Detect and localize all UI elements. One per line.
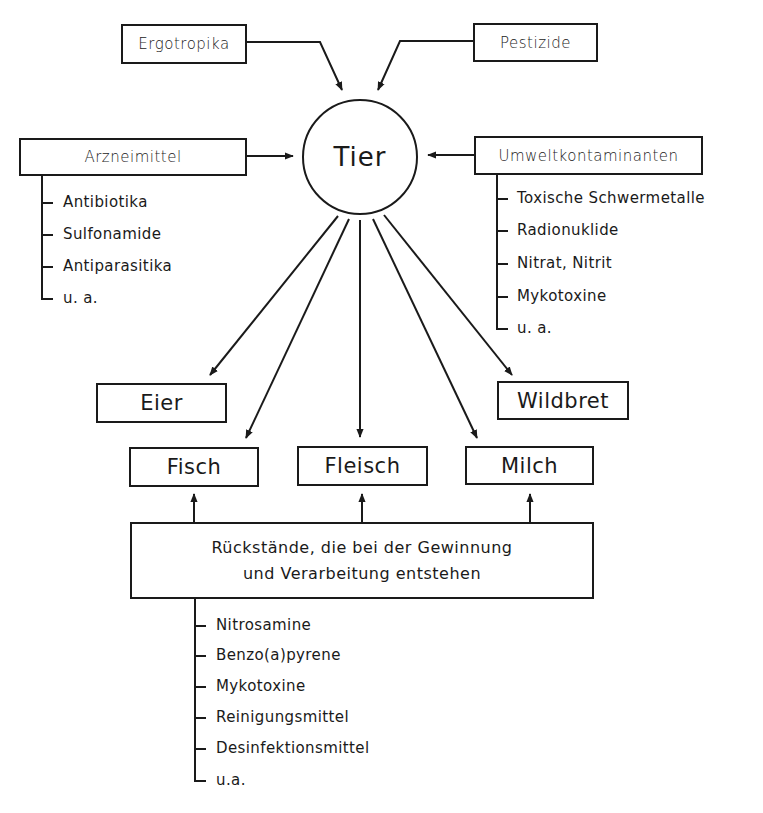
eier-label: Eier: [140, 391, 183, 415]
wildbret-label: Wildbret: [517, 389, 609, 413]
fisch-label: Fisch: [167, 455, 222, 479]
pestizide-label: Pestizide: [500, 34, 571, 52]
list-item: Nitrosamine: [216, 616, 311, 634]
ergotropika-label: Ergotropika: [138, 35, 229, 53]
arrow-tier-to-milch: [373, 219, 477, 438]
fleisch-box: Fleisch: [297, 446, 428, 486]
arzneimittel-bracket: [41, 175, 53, 300]
list-item: Benzo(a)pyrene: [216, 646, 341, 664]
list-item: Desinfektionsmittel: [216, 739, 370, 757]
list-item: Sulfonamide: [63, 225, 161, 243]
list-item: Antiparasitika: [63, 257, 172, 275]
list-item: Nitrat, Nitrit: [517, 254, 612, 272]
fisch-box: Fisch: [129, 447, 259, 487]
list-item: Radionuklide: [517, 221, 619, 239]
tier-label: Tier: [334, 142, 387, 172]
arzneimittel-label: Arzneimittel: [84, 148, 181, 166]
pestizide-box: Pestizide: [473, 23, 598, 62]
processing-box: Rückstände, die bei der Gewinnung und Ve…: [130, 522, 594, 599]
list-item: Mykotoxine: [517, 287, 607, 305]
arrow-pestizide-to-tier: [378, 41, 473, 90]
ergotropika-box: Ergotropika: [121, 24, 247, 64]
arrow-ergotropika-to-tier: [246, 42, 342, 90]
wildbret-box: Wildbret: [497, 381, 629, 420]
umwelt-bracket: [496, 174, 508, 330]
list-item: Antibiotika: [63, 193, 148, 211]
list-item: u.a.: [216, 771, 246, 789]
umweltkontaminanten-box: Umweltkontaminanten: [474, 136, 703, 175]
list-item: u. a.: [63, 289, 98, 307]
milch-box: Milch: [465, 446, 594, 485]
arrow-tier-to-eier: [210, 216, 338, 375]
list-item: Reinigungsmittel: [216, 708, 349, 726]
fleisch-label: Fleisch: [325, 454, 401, 478]
eier-box: Eier: [96, 383, 227, 423]
processing-label-line2: und Verarbeitung entstehen: [243, 561, 481, 587]
milch-label: Milch: [501, 454, 558, 478]
arrow-tier-to-fisch: [246, 219, 349, 438]
processing-label-line1: Rückstände, die bei der Gewinnung: [211, 535, 512, 561]
arrow-tier-to-wildbret: [384, 215, 512, 375]
list-item: Mykotoxine: [216, 677, 306, 695]
tier-node: Tier: [302, 99, 418, 215]
list-item: Toxische Schwermetalle: [517, 189, 705, 207]
umweltkontaminanten-label: Umweltkontaminanten: [498, 147, 678, 165]
list-item: u. a.: [517, 319, 552, 337]
processing-bracket: [194, 598, 206, 782]
arzneimittel-box: Arzneimittel: [19, 138, 247, 176]
